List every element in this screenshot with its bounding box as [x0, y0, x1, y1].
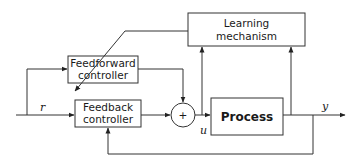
process-label: Process [221, 110, 274, 124]
feedforward-label-line1: Feedforward [70, 57, 135, 69]
control-signal-label: u [200, 124, 207, 137]
feedback-label-line1: Feedback [83, 101, 134, 113]
summing-junction: + [171, 103, 195, 127]
feedforward-controller-block: Feedforward controller [68, 56, 138, 83]
feedforward-label-line2: controller [78, 69, 129, 81]
process-block: Process [211, 98, 283, 135]
sum-symbol: + [179, 109, 188, 121]
learning-label-line2: mechanism [216, 30, 277, 42]
learning-label-line1: Learning [224, 17, 270, 29]
feedback-controller-block: Feedback controller [75, 100, 141, 127]
feedback-label-line2: controller [83, 113, 134, 125]
control-diagram: r Feedforward controller Feedback contro… [0, 0, 353, 164]
feedforward-to-sum-line [138, 69, 183, 102]
learning-mechanism-block: Learning mechanism [188, 13, 305, 46]
reference-signal-label: r [40, 101, 46, 114]
output-signal-label: y [321, 100, 329, 113]
